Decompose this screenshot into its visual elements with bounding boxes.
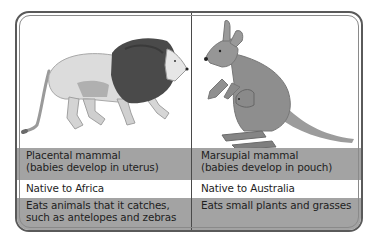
native-region-cell: Native to Africa: [17, 180, 191, 198]
native-region-text: Native to Australia: [201, 183, 361, 195]
mammal-type-detail: (babies develop in pouch): [201, 162, 361, 174]
placental-column: Placental mammal (babies develop in uter…: [17, 13, 191, 230]
diet-text-line1: Eats small plants and grasses: [201, 200, 361, 212]
diet-cell: Eats animals that it catches, such as an…: [17, 198, 191, 232]
native-region-cell: Native to Australia: [192, 180, 361, 198]
kangaroo-image-cell: [192, 13, 361, 148]
mammal-type-detail: (babies develop in uterus): [26, 162, 191, 174]
native-region-text: Native to Africa: [26, 183, 191, 195]
mammal-type-cell: Placental mammal (babies develop in uter…: [17, 148, 191, 180]
kangaroo-illustration-icon: [192, 13, 363, 148]
diet-text-line1: Eats animals that it catches,: [26, 200, 191, 212]
comparison-table: Placental mammal (babies develop in uter…: [15, 11, 363, 232]
mammal-type-cell: Marsupial mammal (babies develop in pouc…: [192, 148, 361, 180]
diet-cell: Eats small plants and grasses: [192, 198, 361, 232]
lion-image-cell: [17, 13, 191, 148]
mammal-type-label: Marsupial mammal: [201, 150, 361, 162]
marsupial-column: Marsupial mammal (babies develop in pouc…: [192, 13, 361, 230]
lion-illustration-icon: [17, 13, 191, 148]
diet-text-line2: such as antelopes and zebras: [26, 212, 191, 224]
mammal-type-label: Placental mammal: [26, 150, 191, 162]
